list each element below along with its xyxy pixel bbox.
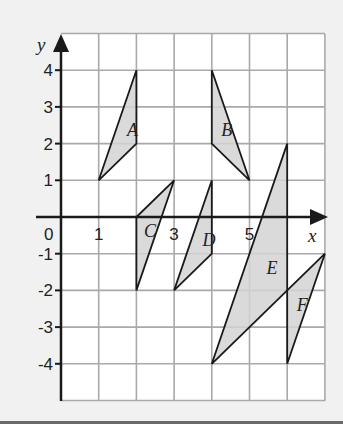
x-axis-label: x — [307, 225, 317, 246]
origin-label: 0 — [44, 225, 53, 244]
triangle-label-b: B — [221, 120, 232, 140]
y-tick-label: -4 — [38, 355, 53, 374]
y-tick-label: -3 — [38, 318, 53, 337]
y-tick-label: 1 — [44, 171, 53, 190]
y-tick-label: 2 — [44, 135, 53, 154]
y-tick-label: -1 — [38, 245, 53, 264]
y-tick-label: 4 — [44, 61, 53, 80]
x-tick-label: 5 — [245, 225, 254, 244]
coordinate-grid-diagram: y x 0 4321-1-2-3-4135 ABCDEF — [0, 0, 343, 424]
y-tick-label: -2 — [38, 281, 53, 300]
y-axis-label: y — [35, 34, 46, 55]
x-tick-label: 3 — [169, 225, 178, 244]
x-tick-label: 1 — [94, 225, 103, 244]
triangle-label-e: E — [265, 258, 277, 278]
triangle-label-c: C — [144, 221, 157, 241]
y-tick-label: 3 — [44, 98, 53, 117]
triangle-label-f: F — [296, 295, 309, 315]
triangle-label-d: D — [201, 230, 215, 250]
triangle-label-a: A — [126, 120, 139, 140]
